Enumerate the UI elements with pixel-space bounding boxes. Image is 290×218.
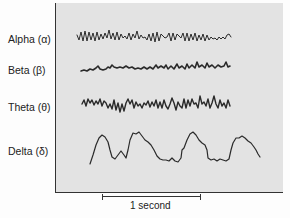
time-scale-bar	[102, 196, 201, 197]
alpha-wave	[77, 30, 231, 42]
delta-wave	[90, 132, 260, 164]
beta-wave	[81, 62, 230, 71]
eeg-traces	[0, 0, 290, 218]
time-scale-label: 1 second	[130, 200, 171, 211]
theta-wave	[82, 96, 230, 112]
